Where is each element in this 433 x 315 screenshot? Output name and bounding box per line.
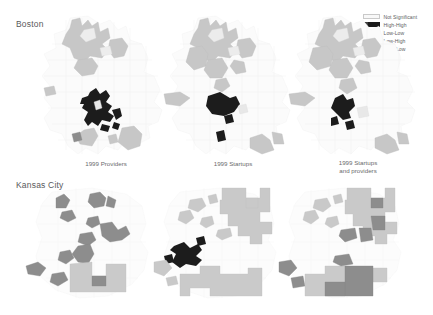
map-panel-boston-startups [150, 14, 295, 159]
panel-caption-boston-startups: 1999 Startups [173, 160, 293, 168]
cluster-high-low-south [72, 132, 82, 142]
panel-caption-boston-startups-providers: 1999 Startups and providers [298, 159, 418, 175]
map-panel-kc-startups-providers [275, 186, 420, 308]
cluster-low-low-west [44, 86, 56, 96]
map-svg-boston-startups [150, 14, 295, 159]
map-svg-kc-providers [22, 186, 167, 308]
map-panel-boston-providers [22, 14, 167, 159]
map-panel-boston-startups-providers [275, 14, 420, 159]
cluster-low-high-core [357, 106, 369, 118]
cluster-low-high-core [238, 104, 248, 114]
panel-caption-boston-providers: 1999 Providers [46, 160, 166, 168]
map-svg-kc-startups [150, 186, 295, 308]
map-svg-boston-providers [22, 14, 167, 159]
map-svg-boston-startups-providers [275, 14, 420, 159]
map-svg-kc-startups-providers [275, 186, 420, 308]
cluster-high-low-south [92, 276, 106, 286]
lisa-cluster-map-figure: Boston Kansas City Not Significant High-… [0, 0, 433, 315]
map-panel-kc-startups [150, 186, 295, 308]
map-panel-kc-providers [22, 186, 167, 308]
